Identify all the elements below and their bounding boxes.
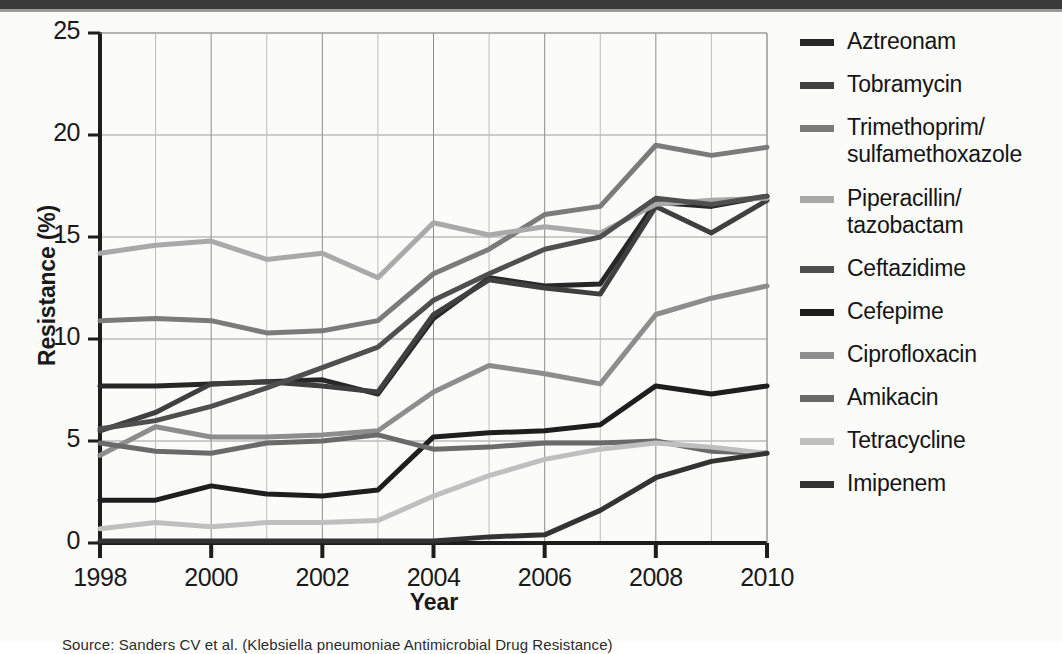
- legend-color-swatch-icon: [800, 39, 834, 46]
- axis-ticks: [88, 33, 767, 558]
- x-tick-label: 2000: [156, 563, 266, 592]
- legend-item[interactable]: Aztreonam: [800, 28, 1058, 55]
- x-tick-label: 2002: [267, 563, 377, 592]
- legend-color-swatch-icon: [800, 438, 834, 445]
- legend-color-swatch-icon: [800, 481, 834, 488]
- legend-color-swatch-icon: [800, 82, 834, 89]
- legend-item[interactable]: Trimethoprim/ sulfamethoxazole: [800, 114, 1058, 168]
- x-tick-label: 2004: [379, 563, 489, 592]
- line-chart-figure: 0510152025 1998200020022004200620082010 …: [0, 12, 1062, 642]
- legend-item[interactable]: Tetracycline: [800, 427, 1058, 454]
- legend-color-swatch-icon: [800, 196, 834, 203]
- x-tick-label: 2008: [601, 563, 711, 592]
- legend-item-label: Tobramycin: [847, 71, 962, 98]
- figure-caption: Source: Sanders CV et al. (Klebsiella pn…: [62, 636, 992, 654]
- y-tick-label: 20: [10, 118, 80, 147]
- legend-item[interactable]: Piperacillin/ tazobactam: [800, 185, 1058, 239]
- y-tick-label: 0: [10, 526, 80, 555]
- legend-color-swatch-icon: [800, 125, 834, 132]
- y-tick-label: 25: [10, 16, 80, 45]
- legend-item-label: Aztreonam: [847, 28, 956, 55]
- legend-item-label: Cefepime: [847, 298, 943, 325]
- chart-legend: AztreonamTobramycinTrimethoprim/ sulfame…: [800, 28, 1058, 514]
- legend-item-label: Piperacillin/ tazobactam: [847, 185, 963, 239]
- legend-color-swatch-icon: [800, 395, 834, 402]
- legend-item-label: Ceftazidime: [847, 255, 966, 282]
- legend-item-label: Ciprofloxacin: [847, 341, 977, 368]
- legend-color-swatch-icon: [800, 352, 834, 359]
- legend-item[interactable]: Tobramycin: [800, 71, 1058, 98]
- x-tick-label: 2006: [490, 563, 600, 592]
- legend-color-swatch-icon: [800, 266, 834, 273]
- x-tick-label: 1998: [45, 563, 155, 592]
- x-tick-label: 2010: [712, 563, 822, 592]
- legend-item[interactable]: Imipenem: [800, 470, 1058, 497]
- x-axis-title: Year: [100, 589, 768, 616]
- legend-item-label: Imipenem: [847, 470, 946, 497]
- legend-item-label: Trimethoprim/ sulfamethoxazole: [847, 114, 1022, 168]
- gridlines: [100, 33, 767, 543]
- legend-item-label: Tetracycline: [847, 427, 965, 454]
- legend-item-label: Amikacin: [847, 384, 938, 411]
- scan-edge-bar: [0, 0, 1062, 9]
- legend-item[interactable]: Amikacin: [800, 384, 1058, 411]
- axis-lines: [98, 32, 767, 543]
- legend-item[interactable]: Ciprofloxacin: [800, 341, 1058, 368]
- legend-item[interactable]: Ceftazidime: [800, 255, 1058, 282]
- y-axis-title: Resistance (%): [34, 176, 61, 396]
- legend-color-swatch-icon: [800, 309, 834, 316]
- legend-item[interactable]: Cefepime: [800, 298, 1058, 325]
- y-tick-label: 5: [10, 424, 80, 453]
